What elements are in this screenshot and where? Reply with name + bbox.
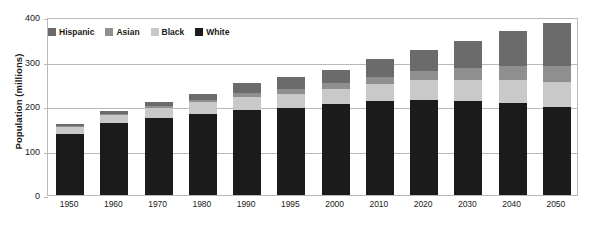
- y-tick-label: 100: [0, 147, 40, 157]
- bar-segment-asian[interactable]: [145, 106, 173, 108]
- bar-group[interactable]: [277, 77, 305, 195]
- population-stacked-bar-chart: Population (millions) 0100200300400 1950…: [0, 0, 592, 225]
- legend-item-asian[interactable]: Asian: [105, 27, 139, 37]
- bar-segment-hispanic[interactable]: [410, 50, 438, 71]
- bar-group[interactable]: [189, 94, 217, 195]
- bar-segment-black[interactable]: [233, 97, 261, 110]
- bar-segment-black[interactable]: [454, 80, 482, 101]
- bar-group[interactable]: [56, 124, 84, 195]
- bar-segment-hispanic[interactable]: [322, 70, 350, 84]
- y-tick-label: 200: [0, 102, 40, 112]
- bar-segment-hispanic[interactable]: [145, 102, 173, 106]
- x-tick-label: 1950: [47, 199, 91, 209]
- bar-segment-asian[interactable]: [454, 68, 482, 80]
- legend-item-white[interactable]: White: [195, 27, 229, 37]
- bar-group[interactable]: [410, 50, 438, 196]
- bar-segment-asian[interactable]: [499, 66, 527, 80]
- x-tick-label: 2020: [401, 199, 445, 209]
- bar-segment-asian[interactable]: [233, 93, 261, 97]
- bar-segment-hispanic[interactable]: [189, 94, 217, 101]
- bar-segment-white[interactable]: [366, 101, 394, 195]
- bar-segment-black[interactable]: [100, 115, 128, 123]
- legend-label: Black: [162, 27, 185, 37]
- bar-segment-white[interactable]: [543, 107, 571, 195]
- bar-segment-white[interactable]: [454, 101, 482, 195]
- bar-group[interactable]: [499, 31, 527, 195]
- x-tick-label: 1970: [136, 199, 180, 209]
- bar-segment-hispanic[interactable]: [454, 41, 482, 69]
- x-tick-label: 1980: [180, 199, 224, 209]
- plot-area: [47, 18, 578, 196]
- bar-segment-black[interactable]: [543, 82, 571, 107]
- legend-item-black[interactable]: Black: [151, 27, 185, 37]
- legend-label: White: [206, 27, 229, 37]
- bar-group[interactable]: [322, 70, 350, 195]
- bar-segment-asian[interactable]: [366, 77, 394, 84]
- bar-segment-black[interactable]: [410, 80, 438, 100]
- legend-label: Hispanic: [59, 27, 94, 37]
- bar-segment-black[interactable]: [145, 108, 173, 118]
- bar-segment-hispanic[interactable]: [100, 111, 128, 114]
- x-tick-label: 2040: [490, 199, 534, 209]
- x-tick-label: 2050: [534, 199, 578, 209]
- bar-group[interactable]: [145, 102, 173, 195]
- bar-segment-white[interactable]: [233, 110, 261, 195]
- bar-segment-black[interactable]: [366, 84, 394, 101]
- bar-segment-black[interactable]: [499, 80, 527, 103]
- bar-segment-hispanic[interactable]: [233, 83, 261, 93]
- bar-segment-white[interactable]: [499, 103, 527, 195]
- y-tick-mark: [44, 197, 48, 198]
- y-tick-label: 0: [0, 191, 40, 201]
- bar-group[interactable]: [366, 59, 394, 195]
- bar-group[interactable]: [100, 111, 128, 195]
- bar-segment-hispanic[interactable]: [366, 59, 394, 77]
- legend-swatch-icon: [151, 28, 159, 36]
- y-tick-label: 300: [0, 58, 40, 68]
- bar-group[interactable]: [454, 41, 482, 195]
- bar-segment-hispanic[interactable]: [499, 31, 527, 66]
- bar-segment-hispanic[interactable]: [56, 124, 84, 126]
- bar-segment-asian[interactable]: [189, 100, 217, 102]
- bar-segment-black[interactable]: [322, 89, 350, 104]
- x-tick-label: 1990: [224, 199, 268, 209]
- bar-segment-black[interactable]: [56, 127, 84, 134]
- legend-swatch-icon: [48, 28, 56, 36]
- bar-segment-asian[interactable]: [100, 114, 128, 115]
- x-tick-label: 2000: [313, 199, 357, 209]
- bar-segment-black[interactable]: [277, 94, 305, 108]
- legend-item-hispanic[interactable]: Hispanic: [48, 27, 94, 37]
- bar-segment-asian[interactable]: [322, 83, 350, 88]
- x-tick-label: 1960: [91, 199, 135, 209]
- x-tick-label: 1995: [268, 199, 312, 209]
- x-axis-tick-labels: 1950196019701980199019952000201020202030…: [47, 199, 578, 219]
- y-tick-label: 400: [0, 13, 40, 23]
- bar-group[interactable]: [543, 23, 571, 195]
- bar-segment-black[interactable]: [189, 102, 217, 114]
- bar-segment-asian[interactable]: [277, 89, 305, 93]
- bar-segment-hispanic[interactable]: [277, 77, 305, 89]
- legend-swatch-icon: [195, 28, 203, 36]
- bar-segment-white[interactable]: [145, 118, 173, 195]
- bar-group[interactable]: [233, 83, 261, 195]
- legend-swatch-icon: [105, 28, 113, 36]
- bar-segment-asian[interactable]: [543, 66, 571, 82]
- bar-segment-asian[interactable]: [410, 71, 438, 80]
- bar-segment-asian[interactable]: [56, 126, 84, 127]
- bar-segment-white[interactable]: [322, 104, 350, 195]
- bar-segment-white[interactable]: [56, 134, 84, 195]
- x-tick-label: 2010: [357, 199, 401, 209]
- bar-segment-white[interactable]: [410, 100, 438, 195]
- chart-legend: HispanicAsianBlackWhite: [48, 27, 229, 37]
- bars-layer: [48, 19, 577, 195]
- bar-segment-white[interactable]: [277, 108, 305, 195]
- x-tick-label: 2030: [445, 199, 489, 209]
- bar-segment-white[interactable]: [189, 114, 217, 195]
- bar-segment-white[interactable]: [100, 123, 128, 195]
- bar-segment-hispanic[interactable]: [543, 23, 571, 66]
- legend-label: Asian: [116, 27, 139, 37]
